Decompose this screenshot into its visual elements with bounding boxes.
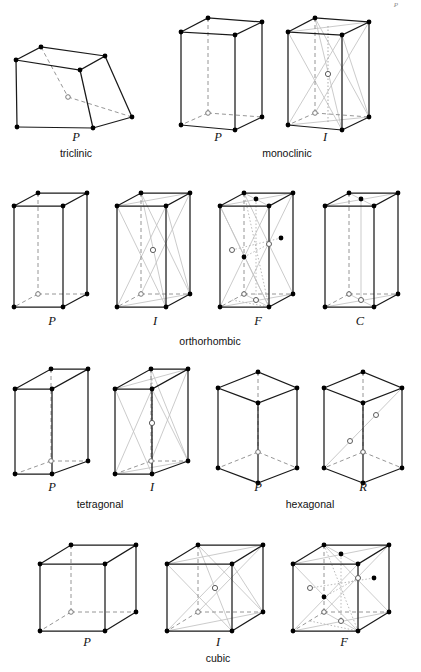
hidden-node bbox=[139, 292, 144, 297]
face-center-node-bottom bbox=[339, 619, 344, 624]
rhombohedral-node-1 bbox=[348, 439, 353, 444]
cell-label: P bbox=[71, 130, 80, 144]
c-face-center-node-top bbox=[359, 197, 364, 202]
system-label: triclinic bbox=[60, 147, 92, 159]
hidden-node bbox=[66, 95, 71, 100]
body-center-node bbox=[149, 420, 154, 425]
corner-mark: P bbox=[393, 1, 399, 9]
cell-label: R bbox=[358, 480, 367, 494]
hidden-node bbox=[196, 610, 201, 615]
system-label: orthorhombic bbox=[179, 335, 240, 347]
system-label: cubic bbox=[206, 652, 231, 664]
body-center-node bbox=[212, 585, 217, 590]
face-center-node-bottom bbox=[254, 298, 259, 303]
face-center-node-back bbox=[356, 576, 361, 581]
cell-label: C bbox=[356, 314, 365, 328]
face-center-node-front bbox=[322, 595, 327, 600]
cell-label: I bbox=[152, 314, 158, 328]
face-center-node-right bbox=[279, 236, 284, 241]
face-center-node-right bbox=[372, 576, 377, 581]
bravais-lattices-figure: P triclinic P bbox=[0, 0, 421, 672]
face-center-node-front bbox=[242, 255, 247, 260]
system-label: tetragonal bbox=[77, 498, 124, 510]
hidden-node bbox=[256, 450, 261, 455]
face-center-node-left bbox=[308, 586, 313, 591]
c-face-center-node-bottom bbox=[359, 298, 364, 303]
cell-label: F bbox=[339, 635, 348, 649]
cell-label: I bbox=[322, 130, 328, 144]
face-center-node-top bbox=[254, 197, 259, 202]
body-center-node bbox=[325, 71, 330, 76]
hidden-node bbox=[36, 292, 41, 297]
cell-label: P bbox=[47, 480, 56, 494]
cell-label: P bbox=[82, 635, 91, 649]
cell-label: P bbox=[213, 130, 222, 144]
system-label: hexagonal bbox=[286, 498, 334, 510]
hidden-node bbox=[149, 459, 154, 464]
face-center-node-left bbox=[230, 248, 235, 253]
system-label: monoclinic bbox=[262, 147, 312, 159]
rhombohedral-node-2 bbox=[374, 413, 379, 418]
cell-label: P bbox=[47, 314, 56, 328]
cell-label: P bbox=[253, 480, 262, 494]
hidden-node bbox=[361, 450, 366, 455]
body-center-node bbox=[150, 247, 155, 252]
cell-label: F bbox=[253, 314, 262, 328]
cell-label: I bbox=[215, 635, 221, 649]
face-center-node-back bbox=[267, 242, 272, 247]
face-center-node-top bbox=[339, 552, 344, 557]
hidden-node bbox=[69, 610, 74, 615]
hidden-node bbox=[49, 459, 54, 464]
hidden-node bbox=[313, 111, 318, 116]
cell-label: I bbox=[149, 480, 155, 494]
hidden-node bbox=[206, 111, 211, 116]
